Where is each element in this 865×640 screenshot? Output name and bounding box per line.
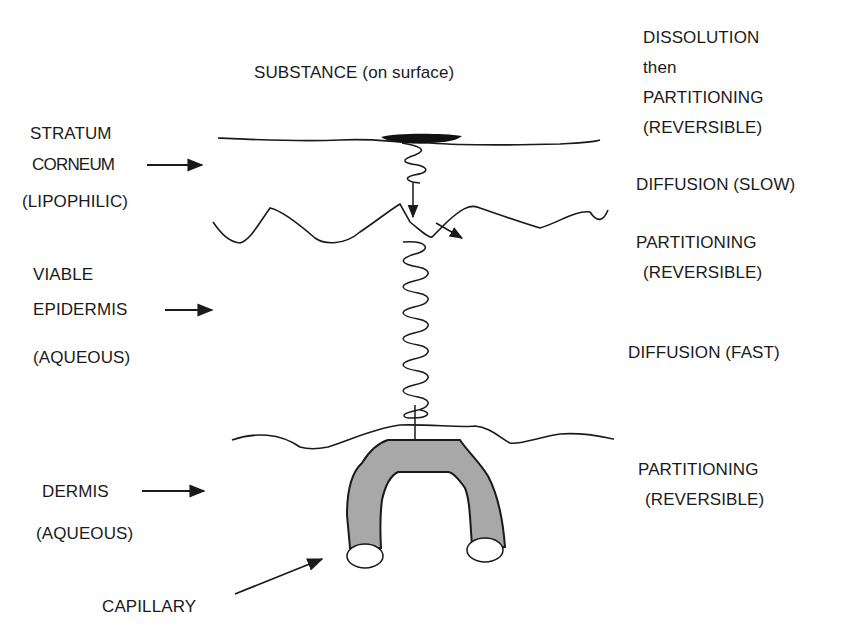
arrow-partition-out [436, 223, 462, 238]
dermis-name: DERMIS [42, 482, 109, 502]
dermis-property: (AQUEOUS) [36, 524, 133, 544]
stratum-corneum-property: (LIPOPHILIC) [22, 192, 128, 212]
diffusion-coil-slow [402, 143, 426, 183]
capillary-label: CAPILLARY [102, 597, 196, 617]
viable-epidermis-name-1: VIABLE [33, 265, 93, 285]
capillary-loop [347, 440, 505, 548]
diffusion-coil-fast [403, 242, 428, 418]
process-dissolution-1: DISSOLUTION [643, 28, 759, 48]
process-partitioning-2-1: PARTITIONING [636, 233, 757, 253]
process-partitioning-2-2: (REVERSIBLE) [643, 263, 762, 283]
arrow-capillary [235, 559, 322, 594]
capillary-end-right [467, 538, 503, 562]
process-dissolution-2: then [643, 58, 677, 78]
process-dissolution-4: (REVERSIBLE) [643, 118, 762, 138]
process-diffusion-slow: DIFFUSION (SLOW) [636, 175, 795, 195]
stratum-corneum-name-2: CORNEUM [32, 155, 114, 175]
substance-label: SUBSTANCE (on surface) [254, 63, 454, 83]
viable-epidermis-property: (AQUEOUS) [33, 348, 130, 368]
process-partitioning-3-1: PARTITIONING [638, 460, 759, 480]
stratum-corneum-name-1: STRATUM [30, 124, 112, 144]
process-diffusion-fast: DIFFUSION (FAST) [628, 343, 780, 363]
process-partitioning-3-2: (REVERSIBLE) [645, 490, 764, 510]
capillary-end-left [347, 544, 383, 568]
process-dissolution-3: PARTITIONING [643, 88, 764, 108]
viable-epidermis-name-2: EPIDERMIS [33, 300, 127, 320]
corneum-epidermis-boundary [213, 204, 608, 243]
